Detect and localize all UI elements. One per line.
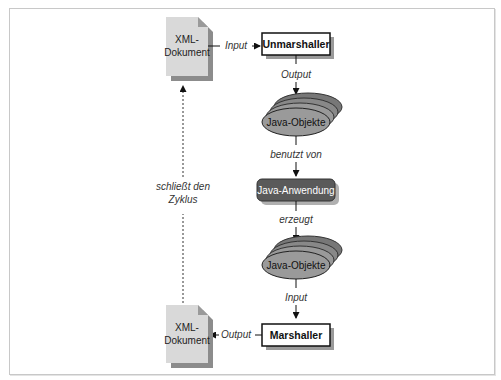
java-app-label: Java-Anwendung: [257, 185, 334, 196]
edge-label-benutzt-von: benutzt von: [270, 149, 322, 160]
edge-label-output-top: Output: [281, 69, 312, 80]
doc-top-line2: Dokument: [164, 47, 210, 58]
edge-label-input-top: Input: [225, 40, 248, 51]
cycle-label-line2: Zyklus: [168, 194, 198, 205]
document-fold: [198, 17, 208, 27]
java-objects-bottom-node: Java-Objekte: [262, 236, 342, 279]
marshaller-node: Marshaller: [262, 324, 334, 350]
java-objects-top-label: Java-Objekte: [267, 117, 326, 128]
cycle-label-line1: schließt den: [156, 181, 210, 192]
doc-bottom-line1: XML-: [175, 322, 199, 333]
xml-document-top: XML- Dokument: [164, 17, 213, 81]
unmarshaller-node: Unmarshaller: [262, 33, 334, 59]
java-objects-top-node: Java-Objekte: [262, 93, 342, 136]
doc-bottom-line2: Dokument: [164, 335, 210, 346]
unmarshaller-label: Unmarshaller: [262, 38, 329, 50]
java-app-node: Java-Anwendung: [257, 179, 339, 205]
java-objects-bottom-label: Java-Objekte: [267, 260, 326, 271]
edge-label-input-bottom: Input: [285, 292, 308, 303]
edge-label-output-bottom: Output: [221, 329, 252, 340]
marshaller-label: Marshaller: [270, 329, 323, 341]
edge-label-erzeugt: erzeugt: [279, 214, 314, 225]
xml-document-bottom: XML- Dokument: [164, 305, 213, 368]
diagram-canvas: XML- Dokument Input Unmarshaller Output …: [0, 0, 501, 380]
document-fold: [198, 305, 208, 315]
doc-top-line1: XML-: [175, 34, 199, 45]
